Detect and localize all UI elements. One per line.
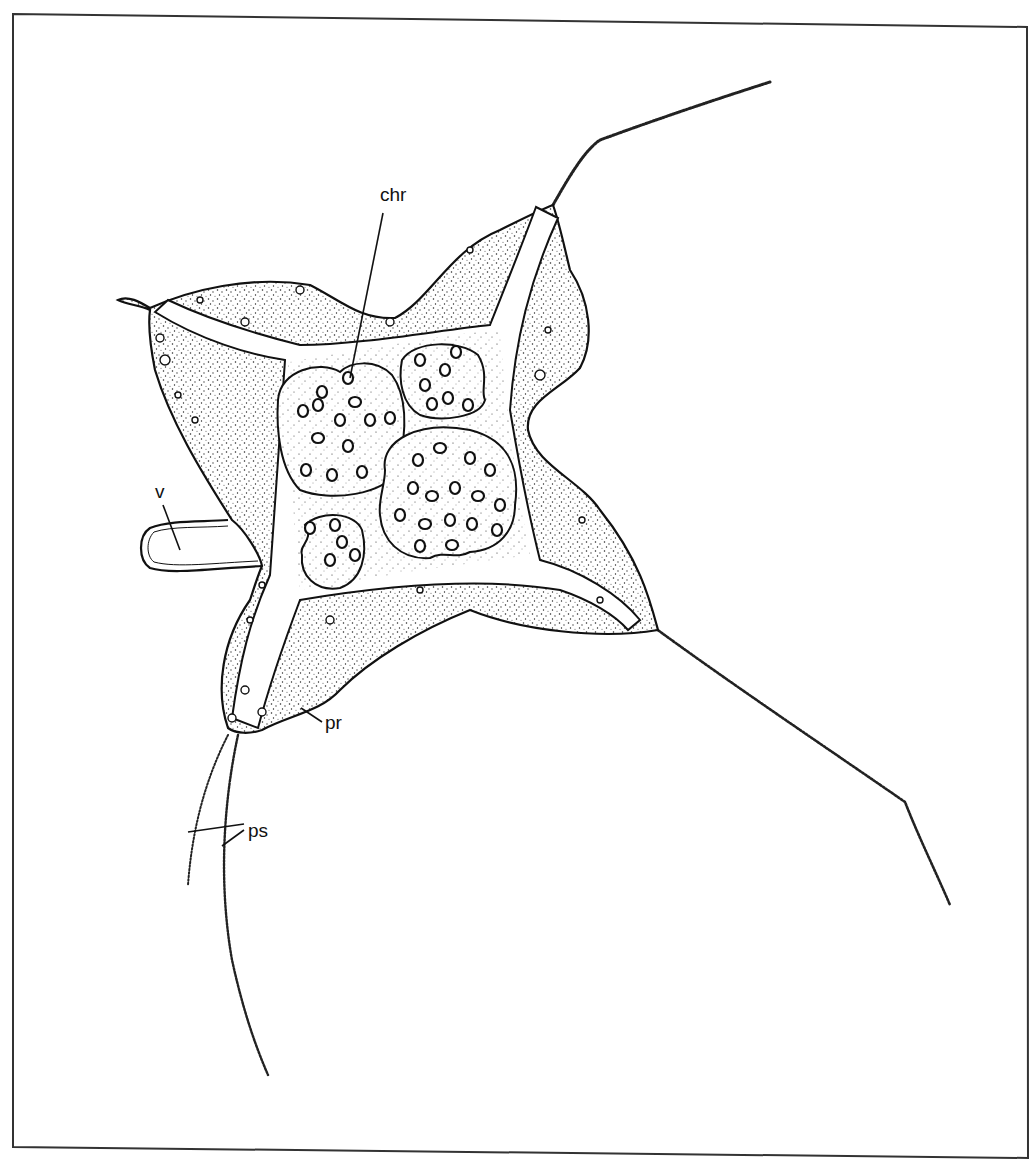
label-v: v — [155, 481, 165, 502]
pseudopod-lower-left-outer — [188, 735, 228, 885]
label-ps: ps — [248, 820, 268, 841]
cell-illustration: chr v pr ps — [0, 0, 1034, 1168]
pseudopod-lower-left-inner — [224, 735, 268, 1075]
label-pr: pr — [325, 712, 343, 733]
label-chr: chr — [380, 184, 407, 205]
nucleus-large — [380, 427, 517, 558]
pseudopod-upper-right — [553, 82, 770, 205]
pseudopod-lower-right — [655, 628, 950, 905]
